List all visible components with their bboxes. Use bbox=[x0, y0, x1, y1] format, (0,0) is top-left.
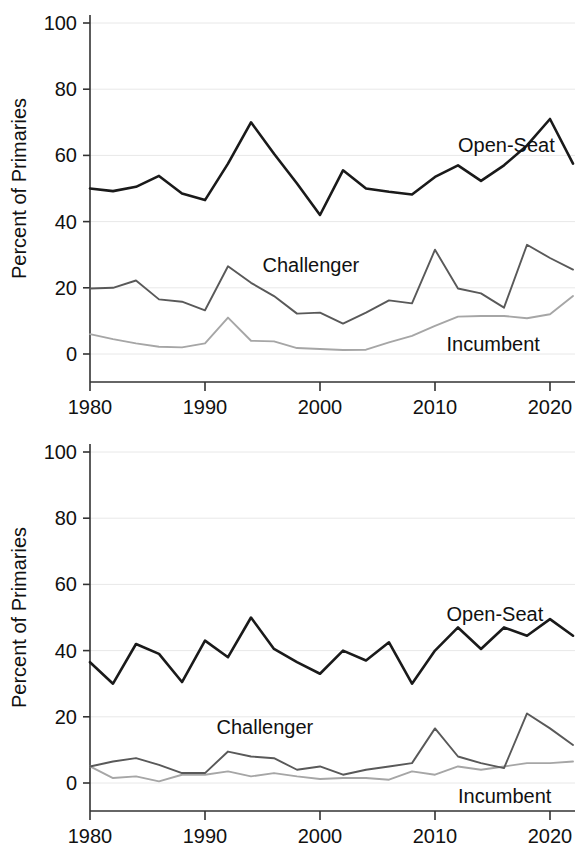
series-label-incumbent: Incumbent bbox=[447, 333, 541, 355]
y-tick-label-20: 20 bbox=[55, 706, 77, 728]
x-axis: 19801990200020102020 bbox=[68, 382, 575, 418]
y-tick-label-0: 0 bbox=[66, 343, 77, 365]
series-label-open-seat: Open-Seat bbox=[458, 134, 555, 156]
x-tick-label-2020: 2020 bbox=[528, 825, 573, 847]
y-tick-label-80: 80 bbox=[55, 507, 77, 529]
x-tick-label-2000: 2000 bbox=[298, 825, 343, 847]
x-tick-label-2010: 2010 bbox=[413, 396, 458, 418]
y-tick-label-0: 0 bbox=[66, 772, 77, 794]
x-tick-label-2020: 2020 bbox=[528, 396, 573, 418]
series-label-open-seat: Open-Seat bbox=[447, 603, 544, 625]
y-axis: 020406080100 bbox=[44, 441, 90, 811]
x-tick-label-2000: 2000 bbox=[298, 396, 343, 418]
y-tick-label-60: 60 bbox=[55, 573, 77, 595]
y-axis-title: Percent of Primaries bbox=[8, 527, 30, 708]
series-label-challenger: Challenger bbox=[217, 716, 314, 738]
y-tick-label-20: 20 bbox=[55, 277, 77, 299]
x-tick-label-2010: 2010 bbox=[413, 825, 458, 847]
y-tick-label-100: 100 bbox=[44, 12, 77, 34]
series-label-incumbent: Incumbent bbox=[458, 785, 552, 807]
y-tick-label-40: 40 bbox=[55, 640, 77, 662]
x-tick-label-1980: 1980 bbox=[68, 396, 113, 418]
series-line-open-seat bbox=[90, 119, 573, 215]
y-axis: 020406080100 bbox=[44, 12, 90, 382]
two-panel-line-chart-figure: 020406080100Percent of Primaries19801990… bbox=[0, 0, 581, 858]
x-axis: 19801990200020102020 bbox=[68, 811, 575, 847]
y-tick-label-40: 40 bbox=[55, 211, 77, 233]
chart-svg-top: 020406080100Percent of Primaries19801990… bbox=[0, 0, 581, 429]
y-axis-title: Percent of Primaries bbox=[8, 98, 30, 279]
x-tick-label-1990: 1990 bbox=[183, 825, 228, 847]
series-label-challenger: Challenger bbox=[263, 254, 360, 276]
y-tick-label-80: 80 bbox=[55, 78, 77, 100]
y-tick-label-100: 100 bbox=[44, 441, 77, 463]
chart-svg-bottom: 020406080100Percent of Primaries19801990… bbox=[0, 429, 581, 858]
series-line-challenger bbox=[90, 713, 573, 774]
y-tick-label-60: 60 bbox=[55, 144, 77, 166]
chart-panel-bottom: 020406080100Percent of Primaries19801990… bbox=[0, 429, 581, 858]
chart-panel-top: 020406080100Percent of Primaries19801990… bbox=[0, 0, 581, 429]
x-tick-label-1990: 1990 bbox=[183, 396, 228, 418]
x-tick-label-1980: 1980 bbox=[68, 825, 113, 847]
